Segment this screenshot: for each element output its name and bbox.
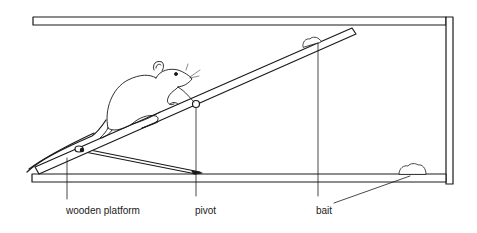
mouse-trap-diagram: wooden platform pivot bait bbox=[0, 0, 477, 233]
label-pivot: pivot bbox=[195, 206, 216, 216]
diagram-drawing bbox=[0, 0, 477, 233]
bait-top bbox=[303, 37, 321, 196]
label-bait: bait bbox=[316, 206, 332, 216]
mouse bbox=[100, 61, 200, 138]
right-wall bbox=[446, 17, 453, 184]
top-rail bbox=[33, 17, 446, 25]
support-strut bbox=[80, 148, 202, 174]
hinge-roller bbox=[75, 146, 84, 152]
bottom-rail bbox=[32, 174, 446, 182]
bait-bottom bbox=[334, 164, 426, 203]
label-wooden-platform: wooden platform bbox=[66, 206, 140, 216]
